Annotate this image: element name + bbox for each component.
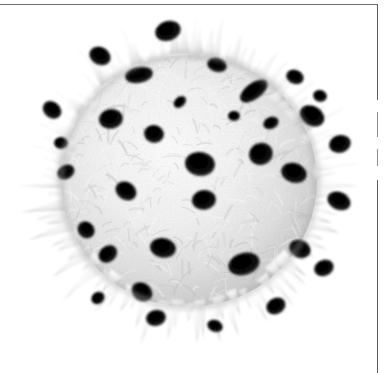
pollen-grain-svg bbox=[8, 6, 370, 364]
aperture-pore bbox=[263, 294, 288, 318]
spine bbox=[314, 163, 360, 172]
aperture-pore bbox=[284, 67, 306, 87]
aperture-pore bbox=[228, 111, 240, 121]
aperture-pore bbox=[89, 289, 107, 307]
aperture-pore bbox=[153, 17, 184, 44]
spine bbox=[19, 180, 64, 189]
plate-rule-top bbox=[0, 4, 378, 5]
figure-plate: Scanning electron micrograph of a spheri… bbox=[0, 0, 392, 373]
specimen-image bbox=[8, 6, 370, 364]
aperture-pore bbox=[39, 97, 65, 122]
aperture-pore bbox=[312, 88, 328, 103]
spine bbox=[180, 12, 191, 54]
specimen-alt-text: Scanning electron micrograph of a spheri… bbox=[0, 0, 1, 1]
plate-rule-right bbox=[377, 4, 378, 373]
aperture-pore bbox=[312, 257, 337, 279]
aperture-pore bbox=[205, 318, 224, 335]
